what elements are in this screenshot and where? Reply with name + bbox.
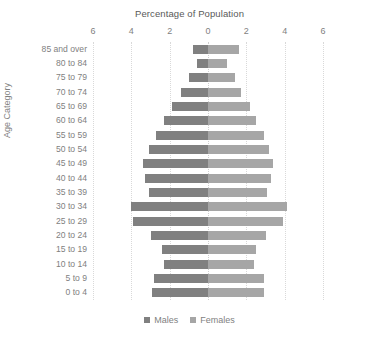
y-category-label: 50 to 54: [1, 145, 87, 154]
y-category-label: 0 to 4: [1, 288, 87, 297]
y-category-label: 60 to 64: [1, 116, 87, 125]
bar-male: [151, 231, 209, 240]
chart-legend: MalesFemales: [0, 315, 379, 325]
bar-row: 40 to 44: [93, 174, 323, 183]
bar-row: 10 to 14: [93, 260, 323, 269]
bar-row: 0 to 4: [93, 288, 323, 297]
bar-female: [208, 231, 266, 240]
bar-male: [149, 188, 208, 197]
bar-row: 50 to 54: [93, 145, 323, 154]
bar-row: 80 to 84: [93, 59, 323, 68]
y-category-label: 15 to 19: [1, 245, 87, 254]
legend-label: Males: [154, 315, 178, 325]
bar-female: [208, 188, 267, 197]
chart-title: Percentage of Population: [0, 8, 379, 19]
bar-male: [189, 73, 208, 82]
bar-female: [208, 45, 239, 54]
x-tick-label: 6: [78, 26, 108, 36]
y-category-label: 85 and over: [1, 45, 87, 54]
y-category-label: 35 to 39: [1, 188, 87, 197]
bar-female: [208, 131, 264, 140]
bar-male: [172, 102, 208, 111]
bar-female: [208, 202, 287, 211]
legend-item: Females: [190, 315, 235, 325]
bar-row: 30 to 34: [93, 202, 323, 211]
bar-female: [208, 159, 273, 168]
bar-male: [149, 145, 208, 154]
y-category-label: 25 to 29: [1, 217, 87, 226]
x-tick-label: 6: [308, 26, 338, 36]
bar-female: [208, 288, 264, 297]
bar-row: 75 to 79: [93, 73, 323, 82]
bar-row: 15 to 19: [93, 245, 323, 254]
bar-male: [131, 202, 208, 211]
y-category-label: 45 to 49: [1, 159, 87, 168]
bar-male: [162, 245, 208, 254]
legend-item: Males: [144, 315, 178, 325]
bar-male: [133, 217, 208, 226]
bar-male: [143, 159, 208, 168]
x-tick-label: 0: [193, 26, 223, 36]
bar-male: [193, 45, 208, 54]
y-category-label: 55 to 59: [1, 131, 87, 140]
population-pyramid-chart: Percentage of Population Age Category 64…: [0, 0, 379, 346]
y-category-label: 5 to 9: [1, 274, 87, 283]
x-tick-label: 2: [231, 26, 261, 36]
bar-row: 85 and over: [93, 45, 323, 54]
bar-male: [197, 59, 209, 68]
bar-female: [208, 88, 241, 97]
bar-female: [208, 59, 227, 68]
bar-row: 25 to 29: [93, 217, 323, 226]
legend-swatch-icon: [190, 317, 196, 323]
legend-label: Females: [200, 315, 235, 325]
bar-female: [208, 260, 254, 269]
bar-row: 35 to 39: [93, 188, 323, 197]
y-category-label: 70 to 74: [1, 88, 87, 97]
plot-area: 6420246 85 and over80 to 8475 to 7970 to…: [93, 42, 323, 300]
legend-swatch-icon: [144, 317, 150, 323]
y-category-label: 30 to 34: [1, 202, 87, 211]
bar-row: 60 to 64: [93, 116, 323, 125]
gridline-6: [323, 42, 325, 300]
bar-male: [164, 260, 208, 269]
bar-female: [208, 174, 271, 183]
y-category-label: 40 to 44: [1, 174, 87, 183]
y-category-label: 75 to 79: [1, 73, 87, 82]
bar-female: [208, 102, 250, 111]
y-category-label: 80 to 84: [1, 59, 87, 68]
y-category-label: 20 to 24: [1, 231, 87, 240]
bar-row: 45 to 49: [93, 159, 323, 168]
y-category-label: 10 to 14: [1, 260, 87, 269]
bar-row: 20 to 24: [93, 231, 323, 240]
bar-row: 70 to 74: [93, 88, 323, 97]
bar-female: [208, 274, 264, 283]
bar-row: 65 to 69: [93, 102, 323, 111]
bar-row: 55 to 59: [93, 131, 323, 140]
bar-female: [208, 217, 283, 226]
bar-female: [208, 245, 256, 254]
bar-female: [208, 145, 269, 154]
bar-male: [164, 116, 208, 125]
y-category-label: 65 to 69: [1, 102, 87, 111]
bar-male: [145, 174, 208, 183]
bar-male: [154, 274, 208, 283]
bar-male: [152, 288, 208, 297]
bar-row: 5 to 9: [93, 274, 323, 283]
bar-female: [208, 73, 235, 82]
x-tick-label: 4: [270, 26, 300, 36]
x-tick-label: 2: [155, 26, 185, 36]
bar-female: [208, 116, 256, 125]
x-tick-label: 4: [116, 26, 146, 36]
bar-male: [181, 88, 208, 97]
bar-male: [156, 131, 208, 140]
